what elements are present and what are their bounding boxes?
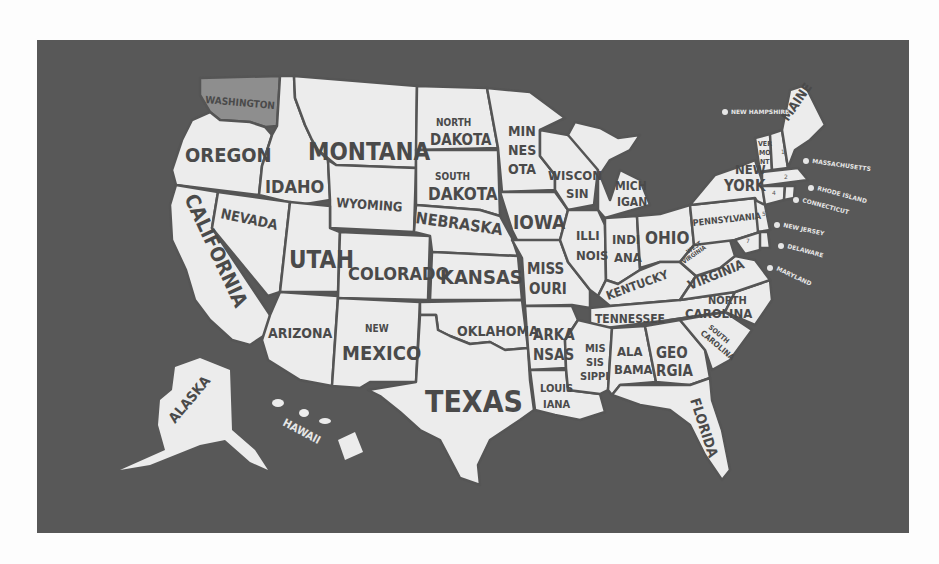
label-michigan-2: IGAN: [617, 195, 647, 209]
label-north-dakota-top: NORTH: [436, 117, 471, 128]
label-wisconsin-1: WISCON: [548, 168, 602, 183]
label-vermont-1: VER: [758, 140, 772, 148]
label-louisiana-1: LOUIS: [540, 382, 573, 395]
legend-item-4: CONNECTICUT: [802, 196, 851, 215]
label-michigan-1: MICH: [615, 179, 647, 193]
label-oklahoma: OKLAHOMA: [457, 323, 539, 339]
state-alaska[interactable]: [120, 358, 268, 470]
label-hawaii: HAWAII: [281, 416, 323, 447]
label-south-dakota-bottom: DAKOTA: [428, 184, 498, 204]
label-alabama-1: ALA: [617, 344, 643, 359]
label-georgia-2: RGIA: [656, 362, 693, 380]
label-north-carolina-2: CAROLINA: [685, 306, 752, 321]
label-south-dakota-top: SOUTH: [435, 171, 470, 182]
us-states-map: WASHINGTON OREGON IDAHO MONTANA WYOMING …: [0, 0, 939, 564]
label-illinois-2: NOIS: [576, 248, 609, 263]
label-illinois-1: ILLI: [576, 228, 600, 243]
num-1: 1: [781, 148, 785, 155]
label-minnesota-1: MIN: [508, 123, 536, 139]
label-texas: TEXAS: [425, 384, 523, 419]
label-new-mexico-bottom: MEXICO: [342, 341, 421, 365]
label-mississippi-2: SIS: [586, 356, 604, 369]
num-7: 7: [746, 237, 750, 244]
label-arkansas-1: ARKA: [533, 326, 575, 344]
label-oregon: OREGON: [185, 143, 272, 167]
label-mississippi-3: SIPPI: [580, 370, 609, 383]
label-montana: MONTANA: [308, 138, 431, 166]
legend-item-7: MARYLAND: [776, 265, 813, 287]
label-vermont-3: NT: [760, 158, 770, 166]
label-kansas: KANSAS: [440, 265, 523, 289]
label-tennessee: TENNESSEE: [595, 312, 665, 326]
label-missouri-1: MISS: [527, 260, 564, 278]
label-georgia-1: GEO: [656, 344, 688, 362]
label-missouri-2: OURI: [529, 280, 567, 298]
label-utah: UTAH: [289, 246, 354, 274]
num-2: 2: [784, 173, 788, 180]
label-mississippi-1: MIS: [585, 342, 606, 355]
label-indiana-2: ANA: [614, 250, 642, 265]
label-new-york-2: YORK: [723, 177, 766, 195]
label-louisiana-2: IANA: [543, 398, 571, 411]
label-north-dakota-bottom: DAKOTA: [430, 131, 492, 149]
label-minnesota-2: NES: [508, 142, 536, 158]
label-minnesota-3: OTA: [508, 161, 536, 177]
label-new-mexico-top: NEW: [365, 323, 389, 334]
label-arkansas-2: NSAS: [533, 346, 574, 364]
state-rhode-island[interactable]: [784, 186, 795, 200]
label-iowa: IOWA: [513, 211, 566, 233]
label-wisconsin-2: SIN: [566, 186, 589, 201]
legend-item-6: DELAWARE: [787, 242, 825, 258]
num-4: 4: [772, 189, 776, 196]
label-arizona: ARIZONA: [268, 325, 333, 341]
legend-item-2: MASSACHUSETTS: [812, 157, 871, 172]
legend-item-1: NEW HAMPSHIRE: [731, 108, 789, 115]
legend-item-5: NEW JERSEY: [783, 221, 826, 238]
label-indiana-1: INDI: [612, 232, 640, 247]
label-colorado: COLORADO: [348, 263, 449, 284]
label-ohio: OHIO: [645, 228, 689, 248]
label-idaho: IDAHO: [265, 176, 324, 197]
label-vermont-2: MO: [759, 149, 771, 157]
label-alabama-2: BAMA: [614, 362, 653, 377]
num-5: 5: [762, 210, 766, 217]
